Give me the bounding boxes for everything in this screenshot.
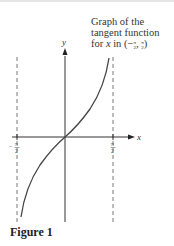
x-axis-label: x <box>136 132 141 142</box>
x-axis-arrow-icon <box>128 135 135 140</box>
y-axis-arrow-icon <box>63 48 68 55</box>
tick-label-left-num: π <box>15 141 18 147</box>
tangent-plot: x y − π 2 π 2 <box>0 0 174 246</box>
tick-label-minus-sign: − <box>9 143 13 149</box>
figure-label: Figure 1 <box>10 225 53 240</box>
tick-label-right-num: π <box>111 141 114 147</box>
tick-label-left-den: 2 <box>15 148 18 154</box>
tick-label-right-den: 2 <box>111 148 114 154</box>
y-axis-label: y <box>61 37 66 47</box>
